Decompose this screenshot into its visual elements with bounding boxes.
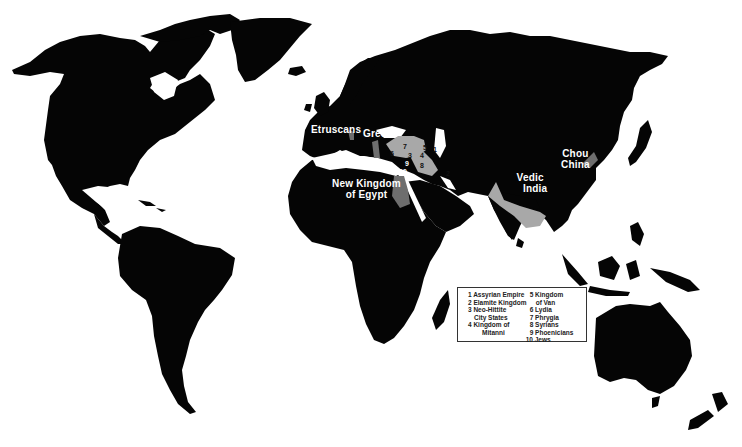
label-egypt-line2: of Egypt — [332, 189, 401, 200]
new-zealand — [688, 392, 728, 430]
label-egypt: New Kingdom of Egypt — [332, 178, 401, 200]
japan — [628, 120, 652, 166]
label-china-line2: China — [561, 159, 590, 170]
label-greeks: Greeks — [363, 128, 398, 139]
legend-item-6: 6 Lydia — [530, 306, 582, 314]
legend-item-7: 7 Phrygia — [530, 314, 582, 322]
british-isles — [304, 92, 330, 116]
south-america — [118, 226, 235, 414]
iceland — [288, 66, 306, 76]
australia — [594, 302, 692, 394]
legend-item-4-cont: Mitanni — [468, 329, 530, 337]
legend-item-5: 5 Kingdom — [530, 291, 582, 299]
label-etruscans: Etruscans — [311, 124, 361, 135]
region-number-10: 10 — [399, 168, 407, 176]
region-number-3: 3 — [408, 152, 412, 160]
region-number-4: 4 — [420, 152, 424, 160]
label-vedic-india: Vedic India — [513, 172, 547, 194]
region-number-6: 6 — [390, 150, 394, 158]
legend-item-8: 8 Syrians — [530, 321, 582, 329]
map-legend: 1 Assyrian Empire 2 Elamite Kingdom 3 Ne… — [457, 287, 587, 342]
region-number-8: 8 — [420, 162, 424, 170]
world-map — [0, 0, 742, 447]
legend-item-9: 9 Phoenicians — [530, 329, 582, 337]
label-china-line1: Chou — [561, 148, 590, 159]
legend-item-2: 2 Elamite Kingdom — [468, 299, 530, 307]
arctic-islands — [140, 14, 240, 42]
legend-item-10: 10 Jews — [526, 336, 582, 344]
caribbean-islands — [138, 200, 166, 212]
sri-lanka — [516, 238, 524, 248]
legend-item-1: 1 Assyrian Empire — [468, 291, 530, 299]
tasmania — [652, 396, 660, 408]
label-egypt-line1: New Kingdom — [332, 178, 401, 189]
region-number-1: 1 — [433, 146, 437, 154]
legend-item-5-cont: of Van — [530, 299, 582, 307]
label-india-line2: India — [513, 183, 547, 194]
region-number-9: 9 — [405, 160, 409, 168]
legend-column-2: 5 Kingdom of Van 6 Lydia 7 Phrygia 8 Syr… — [530, 291, 582, 338]
region-number-5: 5 — [423, 144, 427, 152]
legend-column-1: 1 Assyrian Empire 2 Elamite Kingdom 3 Ne… — [462, 291, 530, 338]
label-india-line1: Vedic — [513, 172, 547, 183]
legend-item-4: 4 Kingdom of — [468, 321, 530, 329]
madagascar — [432, 290, 450, 330]
legend-item-3: 3 Neo-Hittite — [468, 306, 530, 314]
region-number-7: 7 — [403, 143, 407, 151]
label-chou-china: Chou China — [561, 148, 590, 170]
legend-item-3-cont: City States — [468, 314, 530, 322]
region-number-2: 2 — [446, 170, 450, 178]
philippines — [630, 222, 644, 246]
